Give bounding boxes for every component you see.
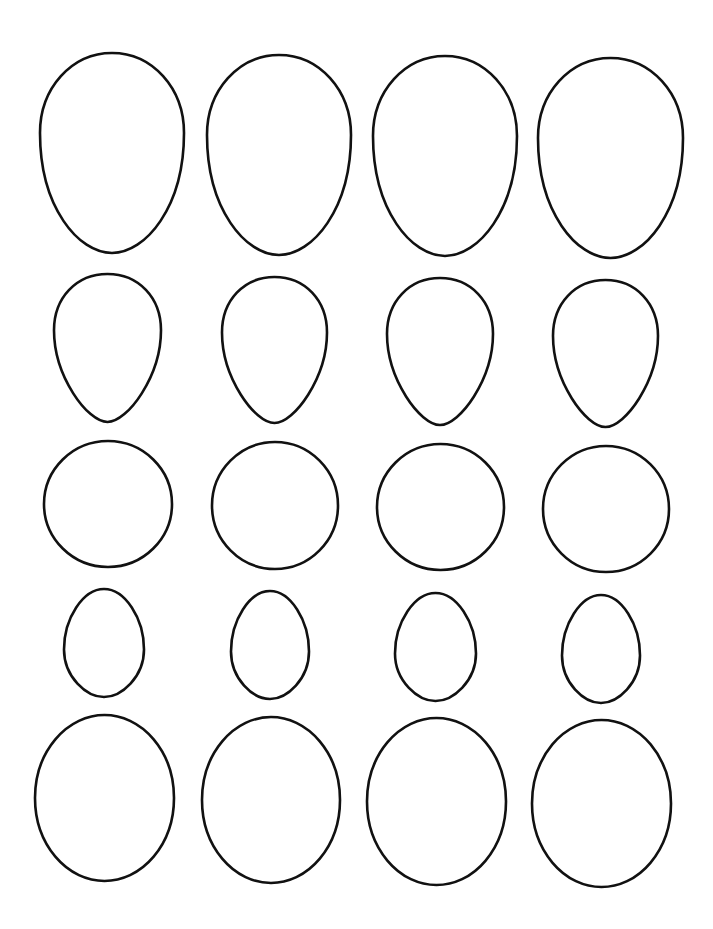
small-egg-outline-4-1 (64, 589, 144, 697)
egg-template-sheet (0, 0, 713, 929)
tall-egg-outline-1-1 (40, 53, 184, 253)
pointed-egg-outline-2-3 (387, 278, 493, 425)
row-small-eggs (64, 589, 640, 703)
oval-outline-5-3 (367, 718, 506, 885)
pointed-egg-outline-2-4 (553, 280, 658, 427)
oval-outline-5-1 (35, 715, 174, 881)
row-circles (44, 441, 669, 572)
tall-egg-outline-1-2 (207, 55, 351, 255)
circle-outline-3-2 (212, 442, 338, 569)
oval-outline-5-2 (202, 717, 340, 883)
circle-outline-3-4 (543, 446, 669, 572)
small-egg-outline-4-3 (395, 593, 476, 701)
tall-egg-outline-1-3 (373, 56, 517, 256)
circle-outline-3-1 (44, 441, 172, 567)
row-medium-pointed-eggs (54, 274, 658, 427)
egg-outlines-canvas (0, 0, 713, 929)
small-egg-outline-4-2 (231, 591, 309, 699)
small-egg-outline-4-4 (562, 595, 640, 703)
pointed-egg-outline-2-2 (222, 277, 327, 423)
row-large-ovals (35, 715, 671, 887)
circle-outline-3-3 (377, 444, 504, 570)
row-large-tall-eggs (40, 53, 683, 258)
oval-outline-5-4 (532, 720, 671, 887)
tall-egg-outline-1-4 (538, 58, 683, 258)
pointed-egg-outline-2-1 (54, 274, 161, 422)
